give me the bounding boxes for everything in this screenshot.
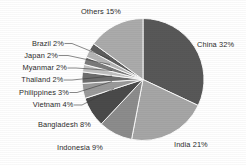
pie-label-brazil: Brazil 2% [0, 40, 64, 48]
pie-slice-group [82, 19, 204, 141]
pie-label-myanmar: Myanmar 2% [0, 64, 67, 72]
pie-label-vietnam: Vietnam 4% [0, 101, 74, 109]
pie-label-china: China 32% [197, 41, 246, 49]
pie-label-philippines: Philippines 3% [0, 89, 69, 97]
pie-label-japan: Japan 2% [0, 52, 58, 60]
pie-chart: Others 15% Brazil 2% Japan 2% Myanmar 2%… [0, 0, 246, 165]
pie-label-bangladesh: Bangladesh 8% [0, 121, 91, 129]
pie-label-indonesia: Indonesia 9% [57, 144, 137, 152]
pie-label-thailand: Thailand 2% [0, 76, 64, 84]
pie-label-india: India 21% [174, 141, 244, 149]
pie-label-others: Others 15% [0, 8, 121, 16]
